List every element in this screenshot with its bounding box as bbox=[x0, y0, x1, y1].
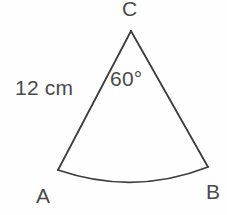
right-radius-line bbox=[131, 31, 208, 167]
central-angle-label: 60° bbox=[110, 68, 142, 89]
radius-length-label: 12 cm bbox=[15, 77, 73, 98]
left-radius-line bbox=[58, 31, 131, 170]
vertex-label-b: B bbox=[206, 181, 220, 202]
vertex-label-c: C bbox=[122, 0, 137, 19]
sector-diagram-canvas: C A B 12 cm 60° bbox=[0, 0, 227, 215]
vertex-label-a: A bbox=[36, 185, 50, 206]
arc-curve bbox=[58, 167, 208, 182]
sector-shape-svg bbox=[0, 0, 227, 215]
